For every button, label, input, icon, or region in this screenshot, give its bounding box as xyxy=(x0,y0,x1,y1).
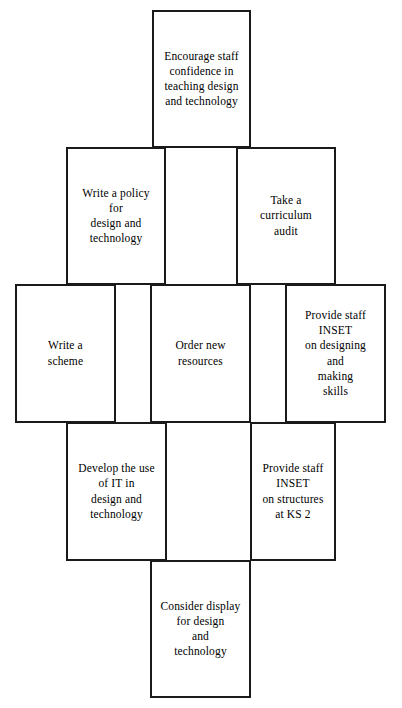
diagram-node-inset-structures-ks2: Provide staff INSET on structures at KS … xyxy=(250,422,336,561)
node-label: Provide staff INSET on designing and mak… xyxy=(301,308,370,399)
diagram-node-develop-use-of-it: Develop the use of IT in design and tech… xyxy=(66,422,167,561)
node-label: Encourage staff confidence in teaching d… xyxy=(160,49,243,110)
node-label: Write a policy for design and technology xyxy=(78,186,153,247)
diagram-canvas: Encourage staff confidence in teaching d… xyxy=(0,0,402,708)
diagram-node-encourage-staff-confidence: Encourage staff confidence in teaching d… xyxy=(152,10,251,148)
node-label: Consider display for design and technolo… xyxy=(156,599,244,660)
diagram-node-order-new-resources: Order new resources xyxy=(150,284,251,423)
node-label: Develop the use of IT in design and tech… xyxy=(74,461,158,522)
node-label: Write a scheme xyxy=(44,338,87,368)
diagram-node-curriculum-audit: Take a curriculum audit xyxy=(236,147,336,285)
diagram-node-consider-display: Consider display for design and technolo… xyxy=(150,560,251,698)
node-label: Order new resources xyxy=(171,338,229,368)
diagram-node-write-a-scheme: Write a scheme xyxy=(15,284,116,423)
diagram-node-write-a-policy: Write a policy for design and technology xyxy=(66,147,166,285)
node-label: Take a curriculum audit xyxy=(256,193,316,239)
diagram-node-inset-designing-making: Provide staff INSET on designing and mak… xyxy=(285,284,386,423)
node-label: Provide staff INSET on structures at KS … xyxy=(258,461,327,522)
